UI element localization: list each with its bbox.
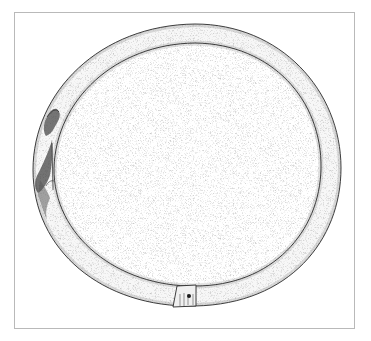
ring-terminal-clasp [173, 285, 196, 307]
rivet-hole [187, 294, 191, 298]
ring-illustration [0, 0, 371, 341]
